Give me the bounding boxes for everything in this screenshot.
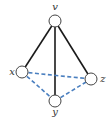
tetrahedron-graph: vxzy [0, 0, 110, 118]
node-label-x: x [9, 66, 15, 77]
edge-x-z [22, 72, 91, 79]
node-label-v: v [52, 1, 58, 12]
nodes [16, 15, 97, 107]
node-x [16, 66, 28, 78]
edge-v-x [22, 21, 55, 72]
node-v [49, 15, 61, 27]
edge-v-z [55, 21, 91, 79]
node-label-z: z [99, 73, 106, 84]
edges [22, 21, 91, 101]
node-z [85, 73, 97, 85]
edge-x-y [22, 72, 55, 101]
node-label-y: y [51, 106, 58, 117]
